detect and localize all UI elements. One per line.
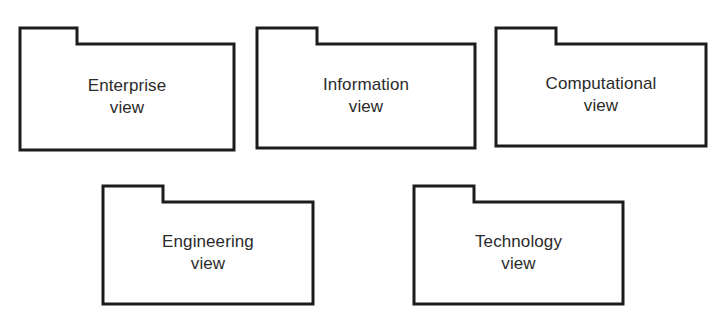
package-shape-path <box>414 186 623 304</box>
package-outline-engineering-view <box>99 182 317 308</box>
package-shape-path <box>257 28 475 148</box>
package-shape-path <box>496 28 706 146</box>
package-engineering-view[interactable]: Engineering view <box>99 182 317 308</box>
package-computational-view[interactable]: Computational view <box>492 24 710 150</box>
uml-package-diagram: Enterprise view Information view Computa… <box>0 0 723 323</box>
package-outline-enterprise-view <box>16 24 238 154</box>
package-enterprise-view[interactable]: Enterprise view <box>16 24 238 154</box>
package-outline-technology-view <box>410 182 627 308</box>
package-outline-computational-view <box>492 24 710 150</box>
package-outline-information-view <box>253 24 479 152</box>
package-shape-path <box>20 28 234 150</box>
package-information-view[interactable]: Information view <box>253 24 479 152</box>
package-technology-view[interactable]: Technology view <box>410 182 627 308</box>
package-shape-path <box>103 186 313 304</box>
